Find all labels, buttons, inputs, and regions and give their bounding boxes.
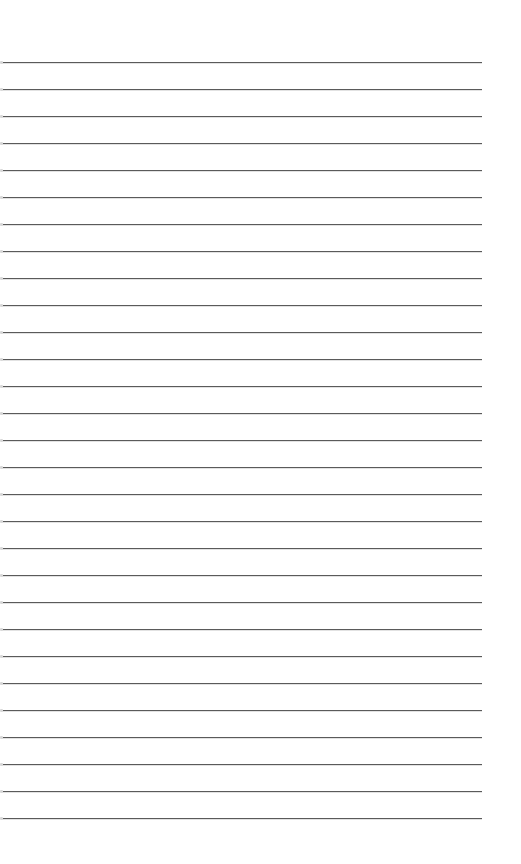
ruled-line (2, 602, 482, 603)
ruled-line (2, 683, 482, 684)
ruled-line (2, 251, 482, 252)
ruled-line (2, 521, 482, 522)
ruled-line (2, 305, 482, 306)
ruled-line (2, 197, 482, 198)
ruled-line (2, 818, 482, 819)
ruled-line (2, 629, 482, 630)
ruled-line (2, 62, 482, 63)
ruled-line (2, 710, 482, 711)
ruled-line (2, 116, 482, 117)
ruled-line (2, 143, 482, 144)
ruled-line (2, 575, 482, 576)
ruled-line (2, 359, 482, 360)
ruled-line (2, 656, 482, 657)
ruled-line (2, 278, 482, 279)
ruled-line (2, 467, 482, 468)
ruled-line (2, 494, 482, 495)
ruled-line (2, 170, 482, 171)
ruled-line (2, 737, 482, 738)
ruled-line (2, 440, 482, 441)
ruled-line (2, 332, 482, 333)
ruled-line (2, 386, 482, 387)
ruled-line (2, 89, 482, 90)
ruled-line (2, 764, 482, 765)
ruled-line (2, 548, 482, 549)
ruled-line (2, 413, 482, 414)
ruled-line (2, 224, 482, 225)
lined-paper-page (0, 0, 521, 864)
ruled-line (2, 791, 482, 792)
